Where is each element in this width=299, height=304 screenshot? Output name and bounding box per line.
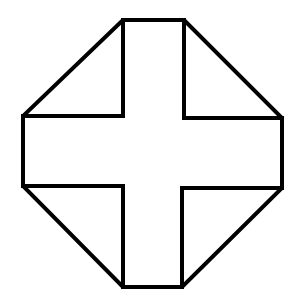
octagon-outline <box>23 20 282 287</box>
diagram-canvas <box>0 0 299 304</box>
octagon-cross-diagram <box>0 0 299 304</box>
cross-shape <box>23 20 282 287</box>
